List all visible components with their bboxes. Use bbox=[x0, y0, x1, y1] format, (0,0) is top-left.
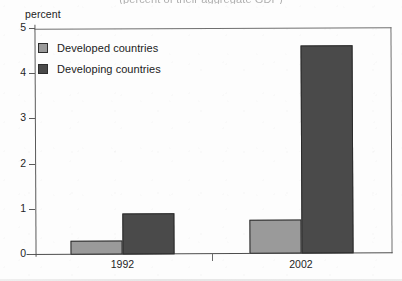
category-separator-tick bbox=[212, 254, 213, 261]
bars-layer bbox=[34, 27, 392, 255]
y-axis-label-0: 0 bbox=[12, 247, 26, 259]
bar-1992-developing-countries bbox=[123, 214, 175, 255]
x-axis-label-2002: 2002 bbox=[271, 258, 331, 270]
y-axis-tick-0 bbox=[29, 254, 35, 255]
y-axis-label-2: 2 bbox=[12, 157, 26, 169]
x-axis-label-1992: 1992 bbox=[92, 258, 152, 270]
y-axis-label-5: 5 bbox=[12, 21, 26, 33]
y-axis-unit-label: percent bbox=[25, 8, 61, 20]
bar-2002-developed-countries bbox=[249, 220, 301, 254]
y-axis-label-3: 3 bbox=[12, 111, 26, 123]
bar-2002-developing-countries bbox=[300, 45, 353, 253]
chart-caption: (percent of their aggregate GDP) bbox=[0, 0, 402, 4]
bar-1992-developed-countries bbox=[71, 241, 123, 255]
y-axis-tick-2 bbox=[29, 164, 35, 165]
y-axis-label-4: 4 bbox=[12, 66, 26, 78]
y-axis-label-1: 1 bbox=[12, 202, 26, 214]
y-axis-tick-1 bbox=[29, 209, 35, 210]
